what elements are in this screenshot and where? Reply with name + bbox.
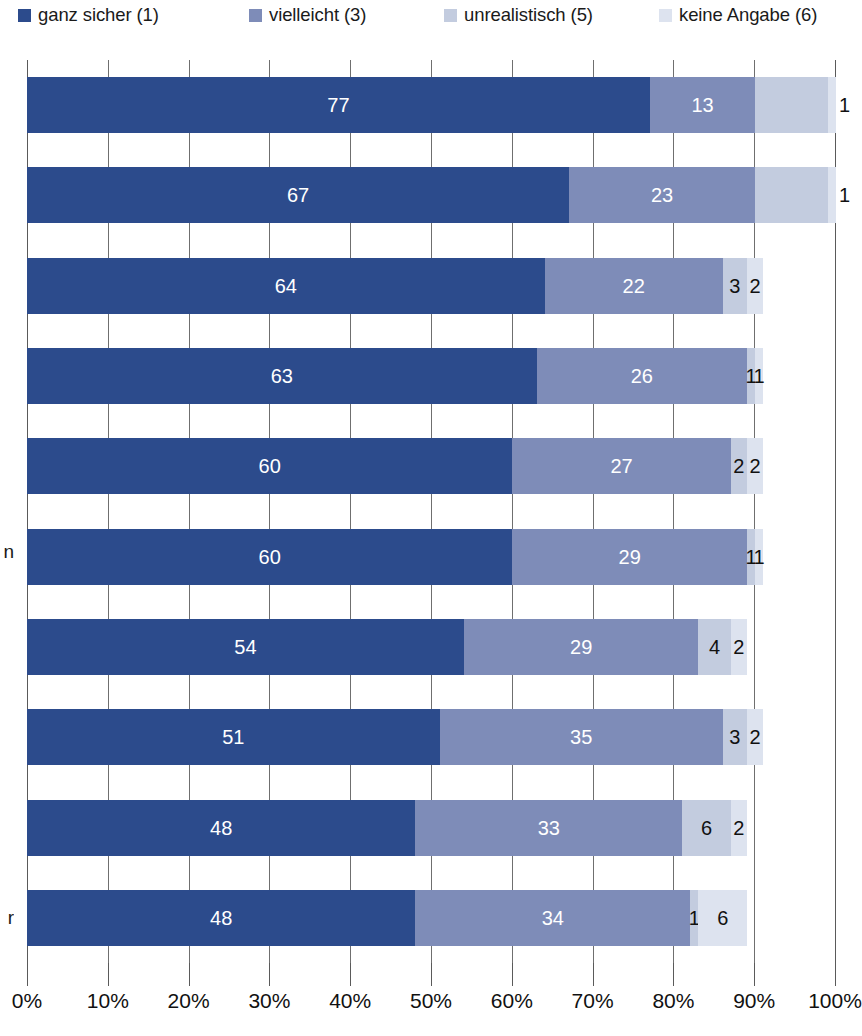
bar-segment[interactable]: 6 [682,800,731,856]
bar-row[interactable]: 67231 [27,167,836,223]
bar-segment[interactable]: 3 [723,258,747,314]
bar-segment[interactable]: 2 [731,438,747,494]
bar-segment-value: 23 [651,185,673,205]
bar-segment[interactable]: 2 [747,258,763,314]
axis-tick-label: 30% [248,990,290,1011]
legend-item-label: vielleicht (3) [269,6,366,25]
legend-item-3[interactable]: unrealistisch (5) [444,6,593,25]
bar-segment-value: 29 [570,637,592,657]
chart-legend: ganz sicher (1)vielleicht (3)unrealistis… [0,0,851,34]
bar-segment[interactable]: 6 [698,890,747,946]
bar-segment-value: 26 [631,366,653,386]
bar-segment[interactable]: 1 [755,529,763,585]
bar-segment[interactable]: 2 [731,800,747,856]
axis-tick-label: 80% [652,990,694,1011]
bar-segment[interactable]: 67 [27,167,569,223]
axis-tick-60% [512,963,513,986]
bar-segment-value: 4 [709,637,720,657]
bar-segment[interactable]: 29 [464,619,699,675]
bar-segment[interactable]: 1 [755,348,763,404]
bar-segment[interactable]: 33 [415,800,682,856]
bar-segment[interactable]: 2 [731,619,747,675]
bar-row[interactable]: 483416 [27,890,836,946]
bar-segment[interactable]: 63 [27,348,537,404]
legend-swatch-series-3 [249,9,262,22]
bar-segment[interactable]: 3 [723,709,747,765]
bar-segment[interactable]: 2 [747,709,763,765]
bar-segment[interactable]: 54 [27,619,464,675]
axis-tick-label: 70% [572,990,614,1011]
bar-row[interactable]: 642232 [27,258,836,314]
axis-tick-90% [754,963,755,986]
bar-segment-value: 3 [729,276,740,296]
bar-segment[interactable]: 1 [690,890,698,946]
bar-segment[interactable]: 77 [27,77,650,133]
bar-segment-value: 60 [259,456,281,476]
bar-segment-value: 54 [234,637,256,657]
bar-row[interactable]: 77131 [27,77,836,133]
legend-item-1[interactable]: ganz sicher (1) [18,6,159,25]
bar-segment-value: 2 [750,456,761,476]
legend-swatch-series-1 [18,9,31,22]
bar-segment[interactable]: 48 [27,800,415,856]
bar-row[interactable]: 483362 [27,800,836,856]
legend-item-4[interactable]: keine Angabe (6) [659,6,817,25]
axis-tick-80% [673,963,674,986]
bar-segment-value: 77 [327,95,349,115]
bar-segment[interactable]: 22 [545,258,723,314]
bar-row[interactable]: 632611 [27,348,836,404]
legend-swatch-series-5 [444,9,457,22]
bar-row[interactable]: 542942 [27,619,836,675]
bar-segment-value: 27 [610,456,632,476]
bar-segment[interactable]: 26 [537,348,747,404]
x-axis: 0%10%20%30%40%50%60%70%80%90%100% [27,963,836,1033]
bar-segment-value: 2 [750,276,761,296]
plot-area: 7713167231642232632611602722602911542942… [27,60,836,963]
bar-segment[interactable]: 29 [512,529,747,585]
bar-segment-value: 51 [222,727,244,747]
bar-segment[interactable]: 60 [27,438,512,494]
bar-segment-value: 64 [275,276,297,296]
bar-segment-value: 1 [839,95,850,115]
bar-segment-value: 13 [691,95,713,115]
bar-segment[interactable]: 2 [747,438,763,494]
bar-segment-value: 35 [570,727,592,747]
bar-segment-value: 48 [210,908,232,928]
bar-segment-value: 29 [619,547,641,567]
bar-segment[interactable]: 27 [512,438,730,494]
axis-tick-30% [269,963,270,986]
bar-segment[interactable]: 48 [27,890,415,946]
bar-segment-value: 2 [733,456,744,476]
category-label-fragment: r [0,908,14,927]
bar-row[interactable]: 602722 [27,438,836,494]
legend-item-2[interactable]: vielleicht (3) [249,6,366,25]
bar-segment[interactable]: 1 [828,77,836,133]
bar-segment[interactable]: 1 [828,167,836,223]
legend-item-label: ganz sicher (1) [38,6,159,25]
bar-segment-value: 33 [538,818,560,838]
bar-segment[interactable]: 64 [27,258,545,314]
bar-segment[interactable]: 34 [415,890,690,946]
bar-segment-value: 48 [210,818,232,838]
bar-segment[interactable]: 4 [698,619,730,675]
bar-segment-value: 67 [287,185,309,205]
bar-segment[interactable]: 51 [27,709,440,765]
bar-segment-value: 34 [542,908,564,928]
legend-item-label: unrealistisch (5) [464,6,593,25]
axis-tick-50% [431,963,432,986]
bar-segment[interactable] [755,167,828,223]
bar-segment[interactable]: 23 [569,167,755,223]
legend-item-label: keine Angabe (6) [679,6,817,25]
bar-segment[interactable]: 60 [27,529,512,585]
bar-row[interactable]: 513532 [27,709,836,765]
axis-tick-label: 100% [808,990,862,1011]
bar-row[interactable]: 602911 [27,529,836,585]
axis-tick-label: 50% [410,990,452,1011]
legend-swatch-series-6 [659,9,672,22]
bar-segment[interactable] [755,77,828,133]
bar-segment-value: 6 [701,818,712,838]
bar-segment[interactable]: 35 [440,709,723,765]
bar-segment[interactable]: 13 [650,77,755,133]
axis-tick-10% [108,963,109,986]
axis-tick-label: 40% [329,990,371,1011]
